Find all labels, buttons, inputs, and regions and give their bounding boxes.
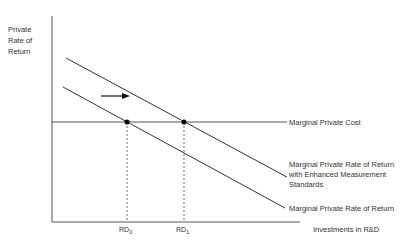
y-axis-label: Private Rate of Return: [8, 24, 48, 57]
rd0-tick-label: RD0: [119, 226, 132, 235]
mpc-label: Marginal Private Cost: [289, 118, 361, 128]
rd1-tick-label: RD1: [176, 226, 189, 235]
rd0-base: RD: [119, 226, 129, 233]
equilibrium-dot-0: [125, 120, 130, 125]
enhanced-leader-line: [285, 176, 287, 177]
mprr-enhanced-label: Marginal Private Rate of Return with Enh…: [289, 160, 404, 190]
rd1-subscript: 1: [186, 229, 189, 235]
right-arrow-icon: [101, 93, 130, 99]
mprr-line: [63, 87, 285, 208]
x-axis-label: Investments in R&D: [313, 225, 379, 235]
rd1-base: RD: [176, 226, 186, 233]
mprr-enhanced-line: [66, 58, 285, 176]
mprr-label: Marginal Private Rate of Return: [289, 204, 394, 214]
equilibrium-dot-1: [182, 120, 187, 125]
rd0-subscript: 0: [129, 229, 132, 235]
